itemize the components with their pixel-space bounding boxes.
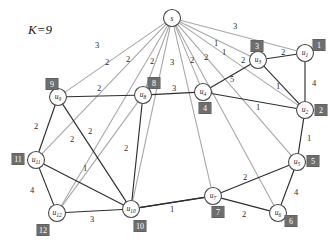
graph-edge: [221, 165, 289, 193]
graph-node-u4[interactable]: [195, 84, 212, 101]
graph-edge: [66, 95, 134, 97]
node-badge-u8: 8: [148, 78, 160, 89]
node-badge-u10: 10: [134, 221, 146, 232]
node-badge-u11: 11: [12, 154, 24, 165]
graph-edge: [65, 209, 122, 212]
graph-node-u5[interactable]: [289, 154, 306, 171]
graph-edge: [221, 198, 270, 211]
graph-node-u8[interactable]: [135, 87, 152, 104]
node-badge-u3: 3: [251, 41, 263, 52]
graph-edge: [44, 164, 124, 205]
graph-edge: [298, 118, 303, 153]
node-badge-u12: 12: [37, 225, 49, 236]
graph-edge: [151, 92, 194, 94]
node-badge-u7: 7: [212, 207, 224, 218]
graph-node-u9[interactable]: [50, 89, 67, 106]
graph-edge: [139, 197, 204, 207]
graph-edge: [266, 54, 296, 58]
graph-edge: [39, 105, 55, 152]
graph-edge: [210, 64, 250, 87]
graph-canvas: [0, 0, 330, 241]
graph-node-u6[interactable]: [270, 205, 287, 222]
node-badge-u4: 4: [199, 103, 211, 114]
graph-edge: [281, 170, 294, 205]
node-badge-u9: 9: [46, 79, 58, 90]
graph-node-u12[interactable]: [49, 205, 66, 222]
graph-node-s[interactable]: [164, 10, 181, 27]
graph-node-u10[interactable]: [123, 201, 140, 218]
graph-node-u1[interactable]: [297, 45, 314, 62]
edge-layer: [39, 20, 305, 212]
graph-node-u7[interactable]: [205, 188, 222, 205]
node-badge-u5: 5: [307, 156, 319, 167]
graph-edge: [61, 25, 167, 205]
graph-edge: [39, 168, 54, 205]
graph-node-u3[interactable]: [250, 52, 267, 69]
graph-figure: K=9 322223221132235214112421222143su11u2…: [0, 0, 330, 241]
graph-edge: [62, 102, 138, 206]
node-badge-u1: 1: [313, 40, 325, 51]
graph-node-u2[interactable]: [297, 102, 314, 119]
node-badge-u2: 2: [315, 105, 327, 116]
graph-edge: [132, 103, 142, 200]
graph-node-u11[interactable]: [28, 152, 45, 169]
node-badge-u6: 6: [285, 216, 297, 227]
